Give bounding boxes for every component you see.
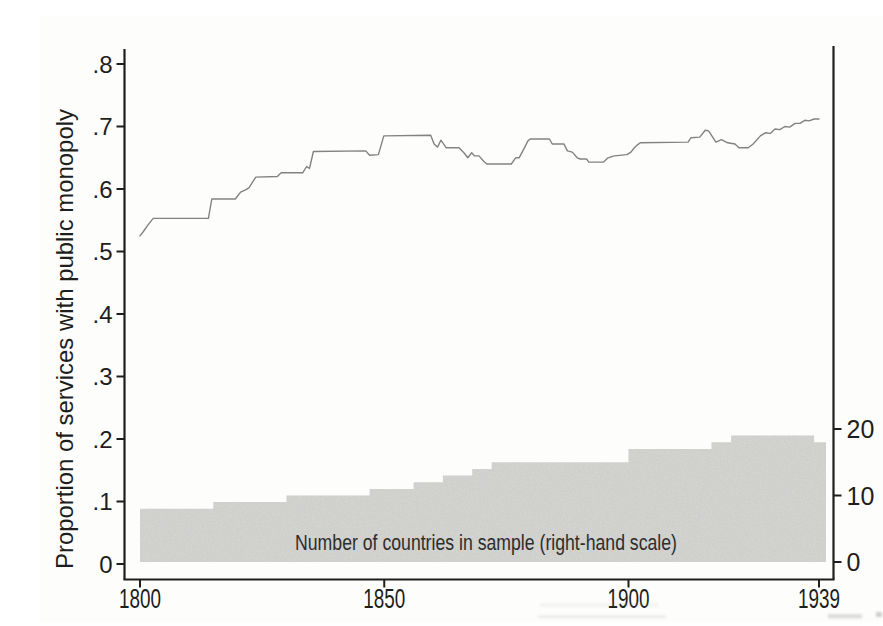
- figure-scanned-chart: Number of countries in sample (right-han…: [40, 16, 883, 622]
- right-tick-label: 10: [847, 482, 875, 510]
- scan-artifact: [538, 615, 666, 619]
- x-tick-label: 1800: [119, 584, 161, 614]
- right-tick-label: 20: [847, 415, 875, 443]
- scan-artifact: [540, 603, 658, 607]
- left-tick-label: .1: [92, 488, 112, 515]
- left-tick-label: .8: [92, 51, 112, 78]
- left-tick-label: .4: [92, 301, 112, 328]
- x-tick-label: 1900: [608, 584, 650, 614]
- left-tick-label: .6: [92, 176, 112, 203]
- scan-artifact: [828, 614, 862, 619]
- x-tick-label: 1850: [363, 584, 405, 614]
- monopoly-chart: Number of countries in sample (right-han…: [40, 16, 883, 622]
- left-tick-label: .3: [92, 363, 112, 390]
- right-tick-label: 0: [847, 548, 861, 576]
- left-tick-label: .2: [92, 426, 112, 453]
- countries-annotation: Number of countries in sample (right-han…: [295, 530, 677, 555]
- left-tick-label: .5: [92, 238, 112, 265]
- left-tick-label: 0: [99, 551, 112, 578]
- y-axis-title: Proportion of services with public monop…: [51, 109, 78, 569]
- x-tick-label: 1939: [798, 584, 840, 614]
- left-tick-label: .7: [92, 113, 112, 140]
- scan-artifact: [876, 612, 882, 617]
- proportion-line-path: [140, 119, 819, 236]
- proportion-line: [140, 119, 819, 236]
